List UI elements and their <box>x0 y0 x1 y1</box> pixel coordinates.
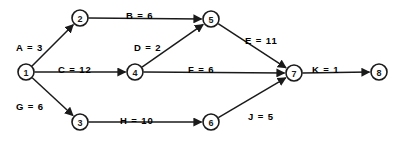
edge-label-j: J = 5 <box>248 111 274 122</box>
node-7[interactable]: 7 <box>286 65 302 81</box>
node-label-7: 7 <box>291 69 296 79</box>
node-5[interactable]: 5 <box>203 11 219 27</box>
node-label-2: 2 <box>77 14 82 24</box>
edge-label-h: H = 10 <box>120 115 154 126</box>
edge-label-f: F = 6 <box>188 64 214 75</box>
edge-label-c: C = 12 <box>58 64 92 75</box>
node-4[interactable]: 4 <box>127 64 143 80</box>
edge-label-b: B = 6 <box>126 10 153 21</box>
node-label-5: 5 <box>208 15 213 25</box>
node-label-1: 1 <box>23 68 28 78</box>
edge-label-e: E = 11 <box>245 35 278 46</box>
network-diagram: 12345678 A = 3B = 6C = 12D = 2E = 11F = … <box>0 0 399 142</box>
node-label-6: 6 <box>208 118 213 128</box>
node-label-3: 3 <box>77 118 82 128</box>
node-3[interactable]: 3 <box>72 114 88 130</box>
node-8[interactable]: 8 <box>371 64 387 80</box>
edge-label-g: G = 6 <box>16 101 44 112</box>
node-2[interactable]: 2 <box>72 10 88 26</box>
node-label-8: 8 <box>376 68 381 78</box>
edge-label-k: K = 1 <box>312 64 339 75</box>
node-6[interactable]: 6 <box>203 114 219 130</box>
node-label-4: 4 <box>132 68 137 78</box>
edge-label-d: D = 2 <box>134 42 161 53</box>
node-1[interactable]: 1 <box>18 64 34 80</box>
edge-label-a: A = 3 <box>16 42 43 53</box>
